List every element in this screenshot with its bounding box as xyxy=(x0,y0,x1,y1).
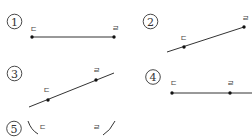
option-2[interactable]: 2 ㄷ ㄹ xyxy=(143,14,248,52)
point-dot xyxy=(170,91,173,94)
point-dot xyxy=(94,78,97,81)
curve-left xyxy=(28,121,38,134)
point-label: ㄹ xyxy=(242,14,249,23)
point-dot xyxy=(30,35,33,38)
point-label: ㄹ xyxy=(93,66,100,75)
point-label: ㄹ xyxy=(93,123,100,132)
point-label: ㄷ xyxy=(170,79,177,88)
option-number: 5 xyxy=(11,123,18,136)
option-1[interactable]: 1 ㄷ ㄹ xyxy=(7,14,118,39)
point-label: ㄷ xyxy=(180,34,187,43)
option-number: 4 xyxy=(150,71,157,84)
point-label: ㄷ xyxy=(43,86,50,95)
point-dot xyxy=(242,25,245,28)
point-dot xyxy=(46,98,49,101)
option-number: 2 xyxy=(147,16,154,29)
option-3[interactable]: 3 ㄷ ㄹ xyxy=(7,66,114,107)
curve-right xyxy=(103,121,115,135)
point-dot xyxy=(112,35,115,38)
point-label: ㄹ xyxy=(227,79,234,88)
option-5[interactable]: 5 ㄷ ㄹ xyxy=(7,121,115,136)
option-number: 1 xyxy=(11,16,18,29)
point-dot xyxy=(182,45,185,48)
point-label: ㄷ xyxy=(39,123,46,132)
point-label: ㄷ xyxy=(30,25,37,34)
answer-options-diagram: 1 ㄷ ㄹ 2 ㄷ ㄹ 3 ㄷ ㄹ 4 ㄷ ㄹ 5 xyxy=(0,0,252,137)
point-label: ㄹ xyxy=(112,24,119,33)
option-number: 3 xyxy=(11,68,18,81)
point-dot xyxy=(228,91,231,94)
option-4[interactable]: 4 ㄷ ㄹ xyxy=(146,70,252,95)
